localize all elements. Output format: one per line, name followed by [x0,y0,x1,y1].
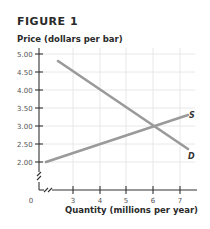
supply-curve [46,115,188,162]
svg-text:4.50: 4.50 [17,69,33,77]
y-tick-labels: 5.00 4.50 4.00 3.50 3.00 2.50 2.00 [17,51,33,167]
svg-text:3.00: 3.00 [17,123,33,131]
svg-text:0: 0 [29,197,33,205]
svg-text:4.00: 4.00 [17,87,33,95]
demand-label: D [188,152,195,161]
svg-text:6: 6 [151,197,156,205]
svg-text:3: 3 [71,197,75,205]
svg-text:7: 7 [178,197,182,205]
svg-text:3.50: 3.50 [17,105,33,113]
gridlines [39,48,195,190]
svg-text:4: 4 [98,197,103,205]
svg-text:2.50: 2.50 [17,141,33,149]
svg-text:2.00: 2.00 [17,159,33,167]
x-tick-labels: 0 3 4 5 6 7 [29,197,182,205]
supply-label: S [189,111,195,120]
chart-plot: 5.00 4.50 4.00 3.50 3.00 2.50 2.00 0 3 4… [0,0,210,229]
svg-text:5: 5 [124,197,128,205]
svg-text:5.00: 5.00 [17,51,33,59]
